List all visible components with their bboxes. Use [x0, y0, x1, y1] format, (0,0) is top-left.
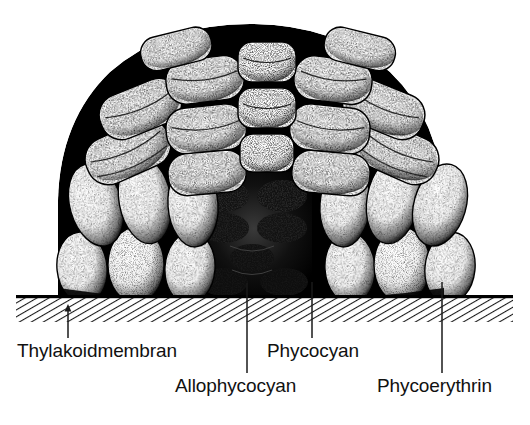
label-phycoerythrin: Phycoerythrin	[377, 376, 492, 395]
label-thylakoidmembran: Thylakoidmembran	[17, 341, 177, 360]
phycobilisome-diagram	[0, 0, 530, 425]
thylakoid-membrane	[16, 295, 513, 322]
membrane-top-rule	[16, 295, 513, 298]
label-phycocyan: Phycocyan	[267, 341, 359, 360]
label-allophycocyan: Allophycocyan	[175, 376, 296, 395]
figure-canvas: Thylakoidmembran Phycocyan Allophycocyan…	[0, 0, 530, 425]
phycobilisome-structure	[53, 24, 478, 307]
phycocyanin-rods	[78, 24, 446, 198]
